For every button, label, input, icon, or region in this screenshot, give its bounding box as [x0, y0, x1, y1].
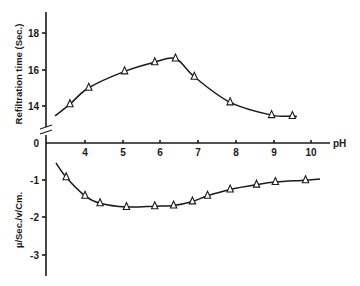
x-tick-label: 5: [120, 147, 126, 158]
upper-curve: [55, 58, 297, 117]
y-tick-label-zero: 0: [33, 138, 39, 149]
y-tick-label: -2: [30, 212, 39, 223]
axes: [40, 12, 330, 276]
y-tick-label: 16: [28, 65, 40, 76]
y-tick-label: -3: [30, 250, 39, 261]
axis-break-mark: [40, 130, 52, 134]
lower-curve: [56, 163, 320, 207]
lower-data-markers: [63, 173, 309, 210]
upper-y-tick-labels: 18 16 14 0: [28, 28, 40, 149]
triangle-marker: [302, 176, 308, 183]
x-tick-label: 6: [157, 147, 163, 158]
triangle-marker: [152, 202, 158, 209]
y-tick-label: -1: [30, 175, 39, 186]
triangle-marker: [272, 178, 278, 185]
lower-y-tick-labels: -1 -2 -3: [30, 175, 39, 261]
x-tick-label: 9: [271, 147, 277, 158]
x-tick-label: 8: [233, 147, 239, 158]
x-tick-label: 10: [305, 147, 317, 158]
x-tick-label: 7: [195, 147, 201, 158]
x-axis-title: pH: [333, 138, 346, 149]
upper-y-axis-title: Refiltration time (Sec.): [13, 24, 24, 125]
lower-y-axis-title: µ/Sec./v/Cm.: [13, 192, 24, 248]
triangle-marker: [289, 112, 295, 119]
x-tick-labels: 4 5 6 7 8 9 10: [82, 147, 317, 158]
x-tick-label: 4: [82, 147, 88, 158]
triangle-marker: [123, 202, 129, 209]
y-tick-label: 14: [28, 101, 40, 112]
y-tick-label: 18: [28, 28, 40, 39]
chart: 18 16 14 0 -1 -2 -3 4 5 6 7 8 9 10 pH Re…: [0, 0, 360, 286]
